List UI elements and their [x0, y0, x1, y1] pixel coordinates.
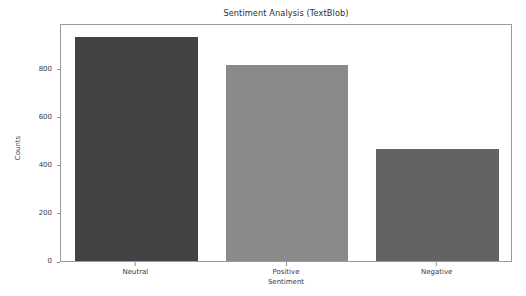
chart-figure: Sentiment Analysis (TextBlob) Counts 020…	[0, 0, 526, 296]
bars-layer	[61, 25, 511, 261]
y-axis-ticks: 0200400600800	[0, 24, 60, 262]
x-tick: Negative	[421, 262, 452, 276]
x-tick-mark	[135, 262, 136, 266]
x-tick-mark	[436, 262, 437, 266]
x-tick-label: Negative	[421, 268, 452, 276]
y-tick-label: 200	[39, 209, 52, 217]
x-tick-mark	[286, 262, 287, 266]
plot-area	[60, 24, 512, 262]
bar-negative	[376, 149, 499, 261]
x-tick: Positive	[273, 262, 300, 276]
chart-title: Sentiment Analysis (TextBlob)	[60, 8, 512, 18]
y-tick-label: 600	[39, 113, 52, 121]
y-tick-label: 800	[39, 65, 52, 73]
y-tick-label: 400	[39, 161, 52, 169]
x-tick-label: Neutral	[122, 268, 148, 276]
x-tick-label: Positive	[273, 268, 300, 276]
bar-neutral	[75, 37, 198, 261]
bar-positive	[226, 65, 349, 261]
x-axis-label: Sentiment	[60, 278, 512, 286]
y-tick-label: 0	[48, 257, 52, 265]
x-tick: Neutral	[122, 262, 148, 276]
